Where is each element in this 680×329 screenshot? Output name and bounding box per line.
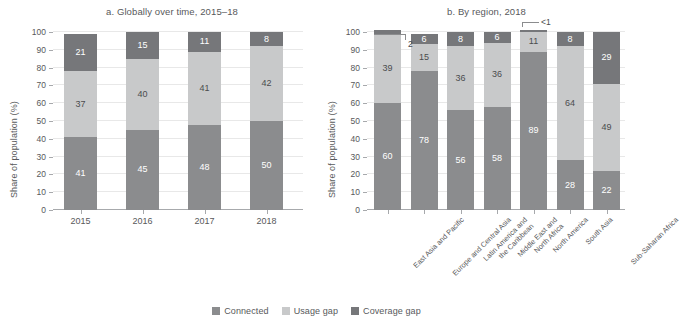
bar-segment-connected[interactable]: 89 [520,52,547,210]
bar-segment-coverage-gap[interactable]: 29 [593,32,620,84]
bar-segment-value: 8 [458,35,463,44]
bar-segment-usage-gap[interactable]: 41 [188,52,221,125]
bar-segment-coverage-gap[interactable]: 8 [250,32,283,46]
stacked-bar[interactable]: 8911 [520,30,547,210]
bar-segment-coverage-gap[interactable]: 21 [64,34,97,71]
x-axis-tick [205,210,206,214]
legend-label: Connected [224,306,268,316]
y-axis-tick-label: 70 [37,80,53,90]
bar-segment-usage-gap[interactable]: 42 [250,46,283,121]
bar-segment-value: 15 [419,53,429,62]
bar-segment-value: 36 [492,70,502,79]
bar-segment-coverage-gap[interactable] [520,30,547,32]
legend-swatch-icon [212,307,220,315]
bar-segment-value: 22 [601,186,611,195]
bar-segment-value: 45 [137,165,147,174]
y-axis-tick-label: 0 [41,205,53,215]
bar-segment-value: 37 [75,100,85,109]
bar-segment-usage-gap[interactable]: 36 [447,46,474,110]
bar-segment-usage-gap[interactable]: 11 [520,32,547,52]
bar-segment-usage-gap[interactable]: 37 [64,71,97,137]
bar-segment-connected[interactable]: 48 [188,125,221,210]
chart-panel-b: b. By region, 2018 Share of population (… [318,0,633,300]
stacked-bar[interactable]: 58366 [484,32,511,210]
panel-a-y-axis-label: Share of population (%) [9,101,19,198]
y-axis-tick-label: 10 [351,187,367,197]
y-axis-tick-label: 60 [37,98,53,108]
legend-item-connected[interactable]: Connected [212,306,268,316]
bar-segment-connected[interactable]: 56 [447,110,474,210]
bar-segment-usage-gap[interactable]: 64 [557,46,584,160]
bar-segment-connected[interactable]: 45 [126,130,159,210]
x-axis-tick [534,210,535,214]
bar-segment-value: 8 [264,35,269,44]
stacked-bar[interactable]: 484111 [188,32,221,210]
stacked-bar[interactable]: 50428 [250,32,283,210]
bar-segment-value: 48 [199,163,209,172]
callout-leader-line-east-asia [374,34,405,35]
y-axis-tick-label: 50 [37,116,53,126]
bar-segment-value: 28 [565,181,575,190]
bar-segment-value: 8 [567,35,572,44]
bar-segment-connected[interactable]: 41 [64,137,97,210]
stacked-bar[interactable]: 413721 [64,34,97,210]
x-axis-label-2018: 2018 [256,216,276,226]
stacked-bar[interactable]: 224929 [593,32,620,210]
bar-segment-value: 56 [455,156,465,165]
callout-bracket-north-america [522,22,539,23]
bar-segment-coverage-gap[interactable]: 11 [188,32,221,52]
y-axis-tick-label: 100 [346,27,367,37]
stacked-bar[interactable]: 56368 [447,32,474,210]
bar-segment-coverage-gap[interactable]: 15 [126,32,159,59]
bar-segment-value: 6 [494,33,499,42]
bar-segment-coverage-gap[interactable]: 6 [411,34,438,45]
bar-segment-value: 29 [601,53,611,62]
bar-segment-usage-gap[interactable]: 49 [593,84,620,171]
bar-segment-usage-gap[interactable]: 36 [484,43,511,107]
y-axis-tick-label: 0 [355,205,367,215]
bar-segment-value: 15 [137,41,147,50]
bar-segment-connected[interactable]: 22 [593,171,620,210]
stacked-bar[interactable]: 78156 [411,34,438,210]
bar-segment-connected[interactable]: 60 [374,103,401,210]
y-axis-tick-label: 20 [351,169,367,179]
chart-legend: ConnectedUsage gapCoverage gap [0,306,633,316]
panel-b-y-axis-label: Share of population (%) [327,101,337,198]
x-axis-label-2015: 2015 [70,216,90,226]
x-axis-tick [388,210,389,214]
bar-segment-coverage-gap[interactable]: 8 [557,32,584,46]
x-axis-label-2017: 2017 [194,216,214,226]
stacked-bar[interactable]: 28648 [557,32,584,210]
panel-a-plot-area: 0102030405060708090100413721454015484111… [53,32,303,210]
bar-segment-connected[interactable]: 28 [557,160,584,210]
bar-segment-connected[interactable]: 78 [411,71,438,210]
bar-segment-value: 40 [137,90,147,99]
y-axis-tick-label: 40 [37,134,53,144]
bar-segment-connected[interactable]: 58 [484,107,511,210]
bar-segment-connected[interactable]: 50 [250,121,283,210]
bar-segment-value: 42 [261,79,271,88]
legend-item-usage-gap[interactable]: Usage gap [282,306,338,316]
bar-segment-value: 58 [492,154,502,163]
legend-label: Coverage gap [363,306,421,316]
panel-b-plot-area: 0102030405060708090100603978156563685836… [367,32,625,210]
y-axis-tick-label: 30 [351,152,367,162]
bar-segment-usage-gap[interactable]: 15 [411,44,438,71]
bar-segment-coverage-gap[interactable]: 8 [447,32,474,46]
stacked-bar[interactable]: 6039 [374,30,401,210]
y-axis-tick-label: 30 [37,152,53,162]
bar-segment-usage-gap[interactable]: 39 [374,34,401,103]
bar-segment-value: 50 [261,161,271,170]
bar-segment-coverage-gap[interactable]: 6 [484,32,511,43]
x-axis-tick [143,210,144,214]
legend-swatch-icon [282,307,290,315]
legend-item-coverage-gap[interactable]: Coverage gap [351,306,421,316]
stacked-bar[interactable]: 454015 [126,32,159,210]
bar-segment-value: 41 [75,169,85,178]
y-axis-tick-label: 90 [351,45,367,55]
bar-segment-value: 60 [382,152,392,161]
x-axis-tick [570,210,571,214]
bar-segment-usage-gap[interactable]: 40 [126,59,159,130]
x-axis-label-line: Sub-Saharan Africa [629,216,680,267]
